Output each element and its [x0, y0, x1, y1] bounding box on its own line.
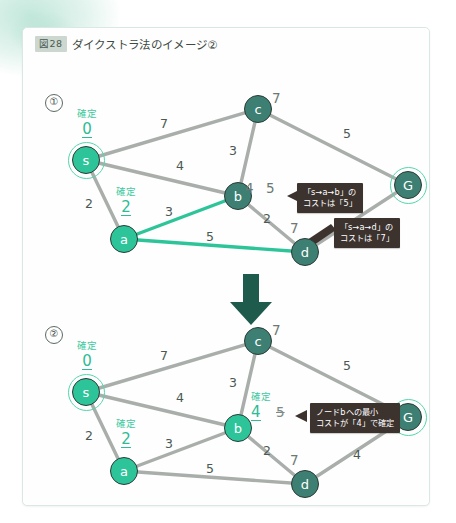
down-arrow-icon [228, 274, 274, 326]
callout-pointer-b-confirmed [295, 410, 307, 422]
edge-weight-bottom-d-g: 4 [353, 447, 361, 462]
confirmed-keyword: 確定 [106, 418, 146, 429]
callout-s-a-b-cost: 「s→a→b」の コストは「5」 [297, 183, 363, 213]
confirmed-keyword: 確定 [106, 186, 146, 197]
node-c-top-tentative: 7 [272, 90, 281, 106]
node-b-bottom[interactable]: b [224, 414, 252, 442]
node-c-bottom[interactable]: c [244, 327, 272, 355]
node-s-bottom-cost: 確定 0 [67, 340, 107, 370]
callout-node-b-confirmed: ノードbへの最小 コストが「4」で確定 [310, 403, 400, 433]
node-d-bottom-tentative: 7 [290, 452, 299, 468]
cost-value: 4 [251, 405, 261, 421]
diagram-stage: ① 確定 0 s 確定 2 a b 4 5 c 7 d 7 G 7 4 2 3 … [23, 28, 429, 505]
node-a-top-cost: 確定 2 [106, 186, 146, 216]
cost-value: 2 [121, 200, 131, 216]
callout-line-1: ノードbへの最小 [316, 407, 394, 418]
edge-top-a-d [124, 239, 305, 252]
edge-weight-top-s-a: 2 [85, 196, 93, 211]
edge-weight-bottom-b-d: 2 [263, 443, 271, 458]
callout-line-2: コストは「5」 [303, 198, 357, 209]
edge-weight-top-b-d: 2 [263, 211, 271, 226]
figure-card: 図28 ダイクストラ法のイメージ② [22, 27, 430, 506]
node-a-top[interactable]: a [110, 225, 138, 253]
step-number-1: ① [45, 94, 63, 112]
node-a-bottom-cost: 確定 2 [106, 418, 146, 448]
node-s-top-cost: 確定 0 [67, 108, 107, 138]
callout-pointer-ab [287, 191, 297, 201]
edge-weight-bottom-c-b: 3 [229, 375, 237, 390]
node-b-bottom-struck-cost: 5 [276, 404, 285, 420]
confirmed-keyword: 確定 [67, 340, 107, 351]
edge-weight-top-a-d: 5 [206, 229, 214, 244]
node-d-bottom[interactable]: d [291, 470, 319, 498]
callout-line-2: コストが「4」で確定 [316, 418, 394, 429]
edge-weight-top-c-b: 3 [229, 143, 237, 158]
node-b-top-tentative-4: 4 [245, 180, 254, 196]
node-a-bottom[interactable]: a [110, 457, 138, 485]
edge-weight-top-a-b: 3 [165, 204, 173, 219]
node-s-bottom[interactable]: s [72, 378, 100, 406]
edge-weight-top-s-b: 4 [176, 158, 184, 173]
node-d-top-tentative: 7 [290, 220, 299, 236]
node-g-top[interactable]: G [394, 171, 422, 199]
callout-s-a-d-cost: 「s→a→d」の コストは「7」 [334, 218, 400, 248]
callout-line-1: 「s→a→d」の [340, 222, 394, 233]
callout-line-2: コストは「7」 [340, 233, 394, 244]
edge-bottom-a-d [124, 471, 305, 484]
edge-weight-bottom-s-a: 2 [85, 428, 93, 443]
cost-value: 0 [82, 354, 92, 370]
node-b-bottom-cost: 確定 4 [251, 391, 291, 421]
node-b-top-tentative-5: 5 [266, 180, 275, 196]
edge-weight-bottom-a-d: 5 [206, 461, 214, 476]
step-number-2: ② [45, 326, 63, 344]
callout-line-1: 「s→a→b」の [303, 187, 357, 198]
edge-weight-bottom-s-c: 7 [160, 348, 168, 363]
node-s-top[interactable]: s [72, 146, 100, 174]
node-d-top[interactable]: d [291, 238, 319, 266]
confirmed-keyword: 確定 [67, 108, 107, 119]
edge-weight-top-s-c: 7 [160, 116, 168, 131]
confirmed-keyword: 確定 [251, 391, 291, 402]
edge-weight-bottom-a-b: 3 [165, 436, 173, 451]
edge-weight-top-c-g: 5 [343, 126, 351, 141]
edge-top-c-g [258, 109, 408, 185]
cost-value: 2 [121, 432, 131, 448]
node-c-bottom-tentative: 7 [272, 322, 281, 338]
node-c-top[interactable]: c [244, 95, 272, 123]
cost-value: 0 [82, 122, 92, 138]
edge-weight-bottom-s-b: 4 [176, 390, 184, 405]
edge-weight-bottom-c-g: 5 [343, 358, 351, 373]
